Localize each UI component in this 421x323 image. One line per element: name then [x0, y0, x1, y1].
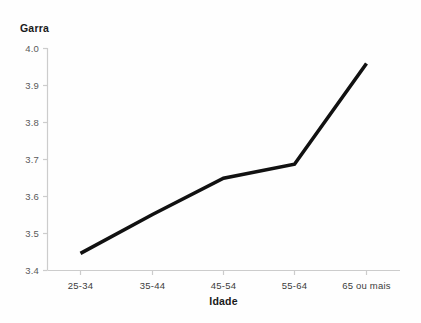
y-tick-label-3-6: 3.6: [25, 191, 39, 202]
y-tick-label-3-8: 3.8: [25, 117, 39, 128]
chart-canvas: Garra 4.0 3.9 3.8 3.7 3.6 3.5 3.4: [0, 0, 421, 323]
x-axis-title: Idade: [209, 295, 237, 307]
y-tick-label-3-4: 3.4: [25, 265, 39, 276]
x-tick-label-65-ou-mais: 65 ou mais: [342, 280, 391, 291]
chart-background: [0, 0, 421, 323]
y-tick-label-3-5: 3.5: [25, 228, 39, 239]
line-chart-container: Garra 4.0 3.9 3.8 3.7 3.6 3.5 3.4: [0, 0, 421, 323]
x-tick-label-25-34: 25-34: [68, 280, 93, 291]
y-tick-label-3-9: 3.9: [25, 80, 39, 91]
y-axis-title: Garra: [20, 22, 49, 34]
x-tick-label-55-64: 55-64: [282, 280, 307, 291]
y-tick-label-4-0: 4.0: [25, 43, 39, 54]
x-tick-label-45-54: 45-54: [211, 280, 236, 291]
y-tick-label-3-7: 3.7: [25, 154, 39, 165]
x-tick-label-35-44: 35-44: [140, 280, 165, 291]
